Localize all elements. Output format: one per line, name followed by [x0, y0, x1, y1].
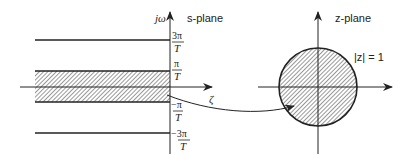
svg-text:π: π: [174, 58, 179, 69]
zeta-axis-label: ζ: [209, 93, 215, 106]
s-plane: jω s-plane ζ 3π T π T −π T −3π T: [20, 12, 223, 154]
unit-circle-label: |z| = 1: [354, 51, 384, 63]
s-to-z-mapping-diagram: jω s-plane ζ 3π T π T −π T −3π T z-plan: [0, 0, 409, 160]
svg-text:T: T: [175, 111, 182, 123]
tick-pi-over-t: π T: [172, 58, 182, 82]
mapping-arrow: [167, 95, 294, 111]
svg-text:−3π: −3π: [171, 128, 187, 139]
svg-text:3π: 3π: [172, 30, 182, 41]
tick-3pi-over-t: 3π T: [172, 30, 184, 54]
z-plane: z-plane |z| = 1: [258, 12, 392, 154]
svg-text:T: T: [174, 70, 181, 82]
z-plane-title: z-plane: [335, 12, 371, 24]
svg-text:T: T: [180, 140, 187, 152]
s-plane-title: s-plane: [187, 12, 223, 24]
tick-neg-3pi-over-t: −3π T: [171, 128, 190, 152]
tick-neg-pi-over-t: −π T: [171, 99, 183, 123]
jw-axis-label: jω: [153, 12, 166, 24]
svg-text:−π: −π: [171, 99, 182, 110]
svg-text:T: T: [174, 42, 181, 54]
